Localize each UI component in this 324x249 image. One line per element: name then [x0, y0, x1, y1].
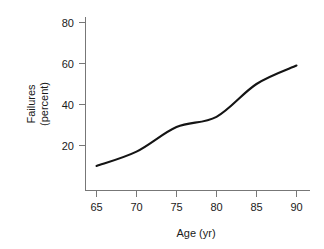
- y-tick-label-60: 60: [62, 58, 74, 70]
- x-axis-title: Age (yr): [176, 227, 215, 239]
- y-tick-label-40: 40: [62, 99, 74, 111]
- x-tick-label-90: 90: [290, 201, 302, 213]
- x-tick-label-70: 70: [130, 201, 142, 213]
- y-tick-label-80: 80: [62, 17, 74, 29]
- x-tick-label-85: 85: [250, 201, 262, 213]
- x-tick-label-80: 80: [210, 201, 222, 213]
- y-axis-title-line2: (percent): [38, 82, 50, 126]
- x-tick-label-75: 75: [170, 201, 182, 213]
- data-series-failures: [97, 66, 297, 166]
- line-chart: 80 60 40 20 65 70 75 80 85 90 Age (yr) F…: [0, 0, 324, 249]
- y-tick-label-20: 20: [62, 140, 74, 152]
- y-axis-title-line1: Failures: [25, 84, 37, 124]
- chart-container: 80 60 40 20 65 70 75 80 85 90 Age (yr) F…: [0, 0, 324, 249]
- x-tick-label-65: 65: [90, 201, 102, 213]
